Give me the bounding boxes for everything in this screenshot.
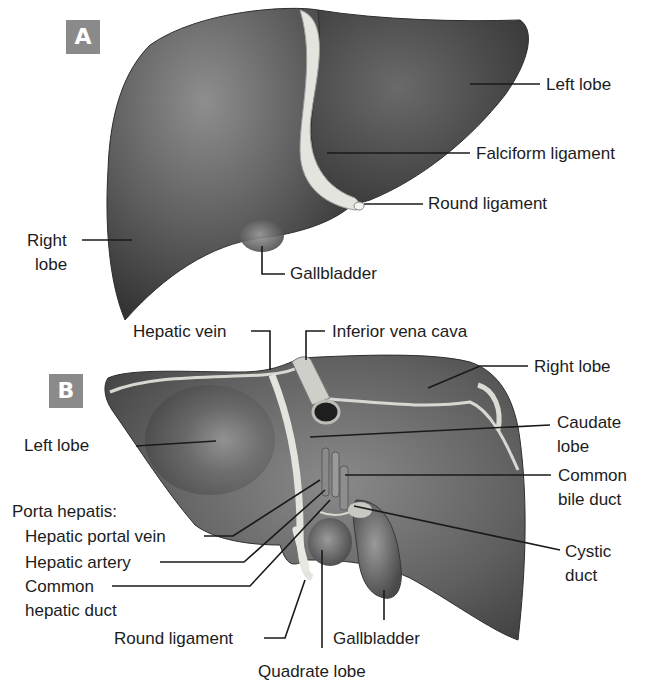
label-b-cystic-duct-line1: Cystic [565, 542, 611, 561]
label-b-hepatic-portal-vein: Hepatic portal vein [25, 527, 166, 546]
label-b-round-ligament: Round ligament [114, 629, 233, 648]
label-b-common-bile-duct-line1: Common [558, 466, 627, 485]
label-b-hepatic-artery: Hepatic artery [25, 553, 131, 572]
panel-b-liver [105, 355, 525, 640]
label-b-left-lobe: Left lobe [24, 436, 89, 455]
label-a-falciform-ligament: Falciform ligament [476, 144, 615, 163]
panel-a-badge: A [66, 20, 100, 54]
label-a-gallbladder: Gallbladder [290, 264, 377, 283]
label-b-gallbladder: Gallbladder [333, 629, 420, 648]
label-b-porta-hepatis-heading: Porta hepatis: [12, 502, 117, 521]
label-b-cystic-duct-line2: duct [565, 566, 597, 585]
label-a-right-lobe-line2: lobe [35, 255, 67, 274]
label-a-right-lobe-line1: Right [27, 231, 67, 250]
label-a-left-lobe: Left lobe [546, 75, 611, 94]
label-b-caudate-lobe-line1: Caudate [557, 413, 621, 432]
label-b-inferior-vena-cava: Inferior vena cava [332, 322, 467, 341]
label-b-common-bile-duct-line2: bile duct [558, 490, 621, 509]
label-b-caudate-lobe-line2: lobe [557, 437, 589, 456]
liver-illustration [0, 0, 654, 690]
panel-b-badge: B [49, 374, 83, 408]
label-b-right-lobe: Right lobe [534, 357, 611, 376]
liver-anatomy-figure: A B Left lobe Falciform ligament Round l… [0, 0, 654, 690]
label-b-common-hepatic-duct-line2: hepatic duct [25, 601, 117, 620]
label-b-quadrate-lobe: Quadrate lobe [258, 662, 366, 681]
label-b-hepatic-vein: Hepatic vein [133, 322, 227, 341]
label-a-round-ligament: Round ligament [428, 194, 547, 213]
label-b-common-hepatic-duct-line1: Common [25, 577, 94, 596]
